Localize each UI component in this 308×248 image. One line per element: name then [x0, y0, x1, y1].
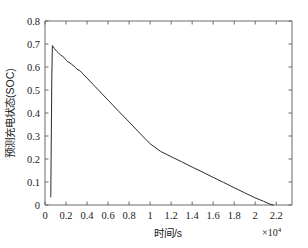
y-tick-label-2: 0.2 — [27, 154, 40, 165]
chart-canvas: 00.20.40.60.811.21.41.61.822.2 00.10.20.… — [0, 0, 308, 248]
x-tick-label-11: 2.2 — [270, 210, 283, 221]
x-tick-label-4: 0.8 — [123, 210, 136, 221]
y-tick-label-7: 0.7 — [27, 39, 40, 50]
y-tick-labels: 00.10.20.30.40.50.60.70.8 — [27, 16, 41, 211]
y-tick-label-8: 0.8 — [27, 16, 40, 27]
y-tick-label-0: 0 — [35, 200, 40, 211]
x-tick-label-7: 1.4 — [186, 210, 200, 221]
x-tick-label-9: 1.8 — [228, 210, 241, 221]
x-tick-label-8: 1.6 — [207, 210, 220, 221]
x-tick-label-5: 1 — [147, 210, 152, 221]
x-tick-label-1: 0.2 — [59, 210, 72, 221]
y-tick-label-4: 0.4 — [27, 108, 41, 119]
x-tick-label-0: 0 — [42, 210, 47, 221]
x-tick-label-10: 2 — [253, 210, 258, 221]
x-axis-title: 时间/s — [154, 227, 182, 239]
chart-figure: 00.20.40.60.811.21.41.61.822.2 00.10.20.… — [0, 0, 308, 248]
x-tick-label-2: 0.4 — [80, 210, 94, 221]
x-tick-label-6: 1.2 — [165, 210, 178, 221]
y-tick-label-3: 0.3 — [27, 131, 40, 142]
x-tick-label-3: 0.6 — [102, 210, 115, 221]
y-tick-label-6: 0.6 — [27, 62, 40, 73]
y-tick-label-5: 0.5 — [27, 85, 40, 96]
y-axis-title: 预测充电状态(SOC) — [4, 68, 16, 158]
y-tick-label-1: 0.1 — [27, 177, 40, 188]
